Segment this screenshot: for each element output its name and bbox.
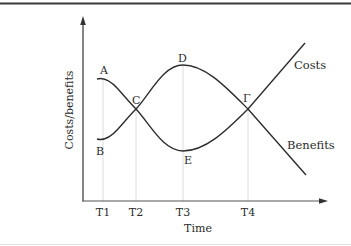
tick-t4: T4 [241, 206, 255, 219]
diagram-frame: A B C D E Γ Costs Benefits T1 T2 T3 T4 T… [0, 0, 351, 246]
x-axis-title: Time [184, 222, 212, 235]
point-label-d: D [178, 52, 187, 65]
point-labels: A B C D E Γ [96, 52, 251, 167]
series-labels: Costs Benefits [287, 58, 335, 152]
point-label-gamma: Γ [243, 92, 251, 105]
axes [80, 16, 328, 204]
y-axis-title: Costs/benefits [63, 70, 76, 149]
cost-benefit-chart: A B C D E Γ Costs Benefits T1 T2 T3 T4 T… [0, 0, 351, 246]
point-label-c: C [132, 94, 140, 107]
guide-lines [103, 65, 248, 201]
point-label-e: E [184, 154, 192, 167]
x-axis-arrow-icon [319, 198, 328, 204]
x-tick-labels: T1 T2 T3 T4 [96, 206, 255, 219]
y-axis-arrow-icon [80, 16, 86, 25]
series-label-benefits: Benefits [287, 138, 335, 152]
tick-t2: T2 [129, 206, 143, 219]
series-label-costs: Costs [294, 58, 326, 72]
tick-t1: T1 [96, 206, 110, 219]
point-label-b: B [96, 145, 104, 158]
costs-curve [97, 43, 305, 151]
point-label-a: A [99, 64, 109, 77]
benefits-curve [97, 65, 306, 175]
tick-t3: T3 [176, 206, 190, 219]
